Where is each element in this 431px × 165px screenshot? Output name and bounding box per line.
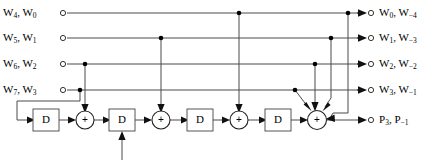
input-ports xyxy=(60,10,65,92)
input-port-4 xyxy=(60,87,65,92)
tap-dot-row4-final xyxy=(293,88,298,93)
tap-dot-row1 xyxy=(237,11,242,16)
input-labels: W4, W0 W5, W1 W6, W2 W7, W3 xyxy=(3,6,37,97)
arrowhead-d3-a3 xyxy=(222,116,230,123)
out-arrowhead-4 xyxy=(358,86,367,94)
adder-4-label: + xyxy=(314,114,320,125)
tap-dot-row4-feedback xyxy=(78,88,83,93)
output-label-5: P3, P−1 xyxy=(379,113,409,127)
out-arrowhead-3 xyxy=(358,60,367,68)
adder-2-label: + xyxy=(158,114,164,125)
delay-block-2-label: D xyxy=(118,113,126,125)
final-adder-taps xyxy=(293,11,351,122)
external-input xyxy=(118,131,125,160)
diagram-canvas: W4, W0 W5, W1 W6, W2 W7, W3 xyxy=(0,0,431,165)
out-arrowhead-5 xyxy=(358,116,367,124)
output-label-4: W3, W−1 xyxy=(379,83,417,97)
input-label-2: W5, W1 xyxy=(3,31,37,45)
arrowhead-d2-a2 xyxy=(144,116,152,123)
output-port-5 xyxy=(368,117,373,122)
delay-block-1-label: D xyxy=(42,113,50,125)
out-arrowhead-1 xyxy=(358,9,367,17)
external-in-arrowhead xyxy=(118,131,125,140)
delay-block-4-label: D xyxy=(274,113,282,125)
wire-final-tap-row2 xyxy=(325,38,331,107)
output-port-1 xyxy=(368,10,373,15)
adder-input-taps xyxy=(81,11,242,113)
input-port-3 xyxy=(60,61,65,66)
input-label-3: W6, W2 xyxy=(3,57,37,71)
adder-3-label: + xyxy=(236,114,242,125)
output-label-3: W2, W−2 xyxy=(379,57,417,71)
output-label-1: W0, W−4 xyxy=(379,6,417,20)
row-wires xyxy=(67,13,365,90)
output-ports xyxy=(327,9,374,124)
input-label-1: W4, W0 xyxy=(3,6,37,20)
wire-final-tap-row1 xyxy=(330,13,348,118)
tap-dot-row2-final xyxy=(329,36,334,41)
signal-flow-diagram: W4, W0 W5, W1 W6, W2 W7, W3 xyxy=(0,0,431,165)
tap-dot-row3 xyxy=(83,62,88,67)
output-port-4 xyxy=(368,87,373,92)
output-label-2: W1, W−3 xyxy=(379,31,417,45)
input-label-4: W7, W3 xyxy=(3,83,37,97)
final-arrowhead-row2 xyxy=(323,102,331,111)
output-labels: W0, W−4 W1, W−3 W2, W−2 W3, W−1 P3, P−1 xyxy=(379,6,417,127)
output-port-2 xyxy=(368,35,373,40)
input-port-2 xyxy=(60,35,65,40)
tap-dot-row2 xyxy=(159,36,164,41)
out-arrowhead-2 xyxy=(358,34,367,42)
input-port-1 xyxy=(60,10,65,15)
delay-block-3-label: D xyxy=(196,113,204,125)
arrowhead-d1-a1 xyxy=(68,116,76,123)
adder-1-label: + xyxy=(82,114,88,125)
tap-dot-row3-final xyxy=(313,62,318,67)
tap-dot-row1-final xyxy=(346,11,351,16)
arrowhead-d4-a4 xyxy=(300,116,308,123)
output-port-3 xyxy=(368,61,373,66)
